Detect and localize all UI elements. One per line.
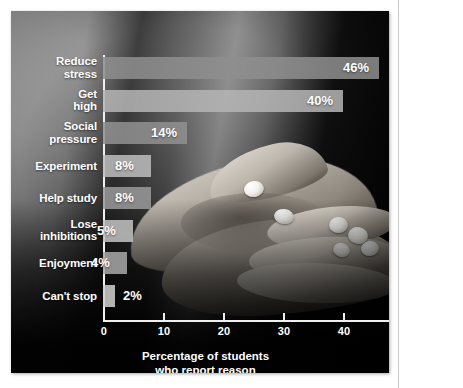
category-label-line1: Can't stop <box>13 290 97 303</box>
bar <box>103 57 379 79</box>
x-axis-tick-label: 0 <box>89 325 119 337</box>
bar-value-label: 4% <box>91 255 110 270</box>
x-axis-title: Percentage of students who report reason <box>11 349 389 373</box>
category-label-line2: stress <box>13 68 97 81</box>
x-axis-line <box>103 320 389 322</box>
bar-value-label: 8% <box>115 190 134 205</box>
bar-row: Help study8% <box>11 187 389 209</box>
category-label-line1: Reduce <box>13 55 97 68</box>
x-axis-tick <box>283 313 285 320</box>
bar-row: Enjoyment4% <box>11 252 389 274</box>
bar-value-label: 40% <box>307 93 333 108</box>
x-axis-tick-label: 40 <box>329 325 359 337</box>
background-photograph: 01020304050 Reducestress46%Gethigh40%Soc… <box>11 11 389 373</box>
category-label-line1: Experiment <box>13 160 97 173</box>
category-label: Gethigh <box>13 88 97 113</box>
bar-value-label: 14% <box>151 125 177 140</box>
category-label-line1: Help study <box>13 192 97 205</box>
category-label-line2: inhibitions <box>13 230 97 243</box>
bar-row: Gethigh40% <box>11 90 389 112</box>
category-label: Help study <box>13 192 97 205</box>
bar-value-label: 2% <box>123 288 142 303</box>
category-label: Enjoyment <box>13 257 97 270</box>
category-label-line1: Enjoyment <box>13 257 97 270</box>
x-axis-tick <box>103 313 105 320</box>
category-label-line1: Lose <box>13 218 97 231</box>
chart-plot-area: 01020304050 Reducestress46%Gethigh40%Soc… <box>11 11 389 373</box>
bar-value-label: 8% <box>115 158 134 173</box>
category-label-line1: Social <box>13 120 97 133</box>
category-label-line2: high <box>13 100 97 113</box>
x-axis-tick-label: 10 <box>149 325 179 337</box>
x-axis-title-line2: who report reason <box>11 363 389 373</box>
bar-row: Reducestress46% <box>11 57 389 79</box>
x-axis-title-line1: Percentage of students <box>11 349 389 363</box>
page-vertical-rule <box>398 0 399 388</box>
bar-row: Experiment8% <box>11 155 389 177</box>
bar-value-label: 5% <box>97 223 116 238</box>
category-label: Socialpressure <box>13 120 97 145</box>
category-label-line1: Get <box>13 88 97 101</box>
x-axis-tick <box>343 313 345 320</box>
bar-row: Socialpressure14% <box>11 122 389 144</box>
category-label-line2: pressure <box>13 133 97 146</box>
x-axis-tick-label: 20 <box>209 325 239 337</box>
x-axis-tick-label: 30 <box>269 325 299 337</box>
category-label: Experiment <box>13 160 97 173</box>
category-label: Can't stop <box>13 290 97 303</box>
bar-value-label: 46% <box>343 60 369 75</box>
x-axis-tick <box>163 313 165 320</box>
bar-row: Can't stop2% <box>11 285 389 307</box>
chart-figure: 01020304050 Reducestress46%Gethigh40%Soc… <box>0 0 463 388</box>
x-axis-tick <box>223 313 225 320</box>
bar-row: Loseinhibitions5% <box>11 220 389 242</box>
category-label: Reducestress <box>13 55 97 80</box>
bar <box>103 285 115 307</box>
category-label: Loseinhibitions <box>13 218 97 243</box>
